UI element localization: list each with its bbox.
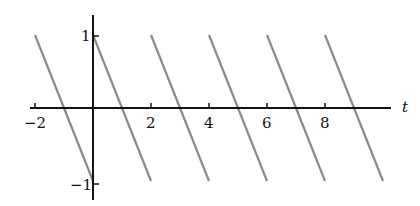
sawtooth-chart: −2 2 4 6 8 1 −1 t — [0, 0, 420, 206]
x-tick-label: 8 — [320, 114, 330, 132]
x-tick-label: 4 — [204, 114, 214, 132]
y-tick-label: −1 — [70, 176, 92, 194]
x-tick-label: −2 — [24, 114, 46, 132]
y-tick-label: 1 — [81, 27, 91, 45]
x-tick-label: 6 — [262, 114, 272, 132]
x-tick-label: 2 — [146, 114, 156, 132]
x-axis-label: t — [402, 98, 409, 116]
